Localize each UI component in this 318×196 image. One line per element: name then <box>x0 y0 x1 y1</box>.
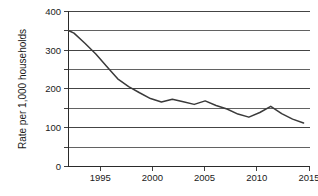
chart-container: 400 300 200 100 0 1995 2000 2005 2010 20… <box>0 0 318 196</box>
x-tick-label-2000: 2000 <box>142 172 163 183</box>
x-tickmarks <box>100 166 309 170</box>
line-chart: 400 300 200 100 0 1995 2000 2005 2010 20… <box>0 0 318 196</box>
y-tick-label-400: 400 <box>45 6 61 17</box>
y-tick-label-300: 300 <box>45 45 61 56</box>
y-tick-label-200: 200 <box>45 83 61 94</box>
y-tick-label-0: 0 <box>56 161 61 172</box>
series-line-property-crime-rate <box>69 30 304 123</box>
y-tick-label-100: 100 <box>45 122 61 133</box>
y-tickmarks <box>64 12 68 167</box>
y-axis-title: Rate per 1,000 households <box>17 29 28 149</box>
x-tick-label-2010: 2010 <box>246 172 267 183</box>
gridlines <box>68 12 310 148</box>
x-tick-label-2015: 2015 <box>298 172 318 183</box>
x-tick-label-1995: 1995 <box>90 172 111 183</box>
x-tick-label-2005: 2005 <box>194 172 215 183</box>
